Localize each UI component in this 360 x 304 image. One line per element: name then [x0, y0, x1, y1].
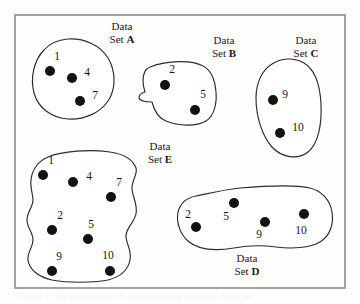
data-point-dot	[260, 217, 270, 227]
set-label-c: Data Set C	[294, 34, 319, 59]
data-point-dot	[47, 225, 57, 235]
data-point-label: 1	[48, 154, 54, 166]
data-point-label: 1	[54, 50, 60, 62]
data-point-dot	[45, 66, 55, 76]
set-label-d-prefix: Set	[235, 265, 252, 277]
data-point-label: 2	[57, 209, 63, 221]
data-point-label: 4	[84, 66, 90, 78]
set-label-a-prefix: Set	[110, 33, 127, 45]
data-point-label: 9	[56, 250, 62, 262]
data-point-label: 5	[223, 210, 229, 222]
set-label-e-line2: Set E	[148, 153, 172, 165]
data-point-label: 10	[295, 224, 307, 236]
set-label-e-letter: E	[165, 153, 172, 165]
data-point-label: 10	[292, 121, 304, 133]
data-point-label: 7	[116, 176, 122, 188]
data-point-label: 10	[102, 249, 114, 261]
data-point-label: 5	[200, 88, 206, 100]
set-label-b-letter: B	[229, 47, 237, 59]
data-point-dot	[67, 73, 77, 83]
blob-set-d	[177, 186, 332, 250]
data-point-label: 2	[185, 208, 191, 220]
set-label-b-prefix: Set	[212, 47, 229, 59]
data-point-label: 7	[92, 89, 98, 101]
set-label-b: Data Set B	[212, 34, 237, 59]
set-label-c-prefix: Set	[294, 47, 311, 59]
data-point-label: 2	[169, 63, 175, 75]
data-set-diagram: 1 4 7 2 5 9 10 2 5 9 1	[0, 0, 360, 304]
data-point-dot	[105, 266, 115, 276]
set-label-b-line1: Data	[214, 34, 235, 46]
data-point-label: 4	[86, 170, 92, 182]
data-point-dot	[268, 95, 278, 105]
set-label-c-line1: Data	[296, 34, 317, 46]
set-label-d-letter: D	[251, 265, 259, 277]
set-label-c-line2: Set C	[294, 47, 319, 59]
data-point-dot	[275, 128, 285, 138]
set-label-d-line2: Set D	[235, 265, 260, 277]
set-label-a-line1: Data	[112, 20, 133, 32]
data-point-label: 5	[88, 218, 94, 230]
data-point-dot	[229, 198, 239, 208]
data-point-dot	[106, 192, 116, 202]
data-point-dot	[160, 80, 170, 90]
set-label-e: Data Set E	[148, 140, 172, 165]
set-label-c-letter: C	[310, 47, 318, 59]
set-label-a-line2: Set A	[110, 33, 135, 45]
figure-caption: Figure 1. The evidence for N-fold cluste…	[18, 291, 342, 301]
data-point-dot	[83, 234, 93, 244]
data-point-dot	[75, 96, 85, 106]
set-label-e-line1: Data	[150, 140, 171, 152]
data-point-dot	[190, 105, 200, 115]
data-point-dot	[47, 266, 57, 276]
data-point-dot	[299, 209, 309, 219]
set-label-d: Data Set D	[235, 252, 260, 277]
data-point-dot	[68, 177, 78, 187]
set-label-a-letter: A	[126, 33, 134, 45]
data-point-label: 9	[282, 88, 288, 100]
set-label-b-line2: Set B	[212, 47, 237, 59]
set-label-d-line1: Data	[237, 252, 258, 264]
set-label-e-prefix: Set	[148, 153, 165, 165]
data-point-dot	[191, 222, 201, 232]
data-point-dot	[38, 170, 48, 180]
set-label-a: Data Set A	[110, 20, 135, 45]
blob-set-c	[256, 59, 321, 157]
figure-container: 1 4 7 2 5 9 10 2 5 9 1	[0, 0, 360, 304]
data-point-label: 9	[256, 228, 262, 240]
